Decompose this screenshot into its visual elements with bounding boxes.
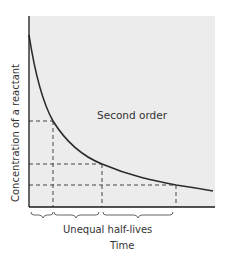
bracket-label: Unequal half-lives (63, 224, 152, 235)
second-order-kinetics-chart: Second order Unequal half-lives Time Con… (0, 0, 226, 259)
y-axis-label: Concentration of a reactant (10, 64, 21, 202)
brace-2 (54, 212, 99, 218)
brace-3 (103, 212, 173, 218)
brace-1 (31, 212, 53, 218)
curve-label: Second order (97, 109, 168, 121)
x-axis-label: Time (109, 240, 134, 251)
half-life-braces (31, 212, 173, 218)
